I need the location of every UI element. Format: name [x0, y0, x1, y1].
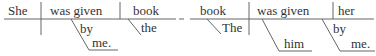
indirect-object-word: him: [284, 36, 304, 51]
object-modifier-word: the: [141, 20, 157, 35]
subject-modifier-word: The: [222, 20, 242, 35]
subject-word: She: [8, 3, 28, 18]
preposition-object-word: me.: [92, 35, 111, 50]
preposition-word: by: [333, 21, 347, 36]
sentence-diagrams: She was given book the by me. book The w…: [0, 0, 376, 56]
object-word: her: [338, 3, 355, 18]
preposition-word: by: [80, 21, 94, 36]
subject-word: book: [200, 3, 227, 18]
modifier-diagonal: [128, 19, 141, 35]
preposition-object-word: me.: [351, 36, 370, 51]
verb-word: was given: [257, 3, 310, 18]
verb-word: was given: [50, 3, 103, 18]
indirect-diagonal: [262, 19, 279, 51]
modifier-diagonal: [207, 19, 221, 34]
object-word: book: [133, 3, 160, 18]
diagram-2: book The was given her him by me.: [190, 2, 375, 51]
diagram-1: She was given book the by me.: [4, 2, 176, 50]
